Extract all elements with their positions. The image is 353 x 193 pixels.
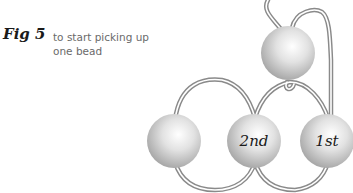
bead-diagram: 2nd 1st	[0, 0, 353, 193]
bead-second-label: 2nd	[239, 132, 269, 150]
bead-second: 2nd	[227, 114, 281, 168]
bead-left	[147, 114, 201, 168]
bead-first-label: 1st	[315, 132, 339, 150]
bead-top	[261, 26, 315, 80]
bead-first: 1st	[300, 114, 353, 168]
